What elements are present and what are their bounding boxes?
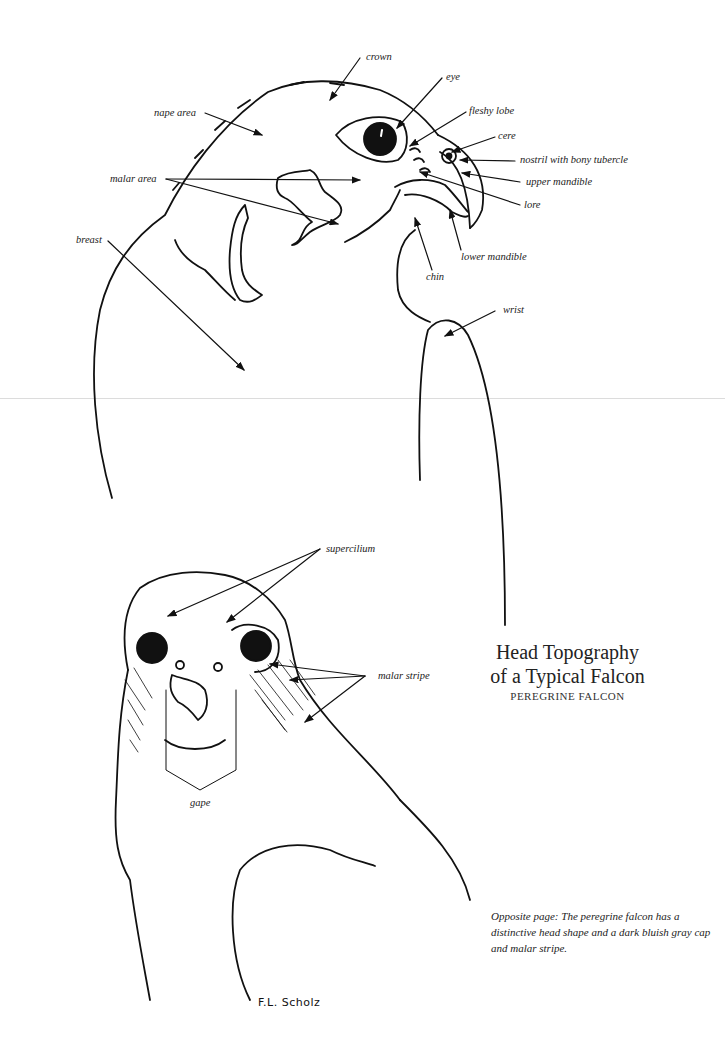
title-line-2: of a Typical Falcon <box>470 664 665 688</box>
label-eye: eye <box>446 72 460 83</box>
label-supercilium: supercilium <box>326 544 375 555</box>
label-crown: crown <box>366 52 392 63</box>
label-fleshy-lobe: fleshy lobe <box>469 106 514 117</box>
label-upper-mandible: upper mandible <box>526 177 592 188</box>
figure-subtitle: PEREGRINE FALCON <box>470 690 665 702</box>
label-nape-area: nape area <box>154 108 196 119</box>
label-lower-mandible: lower mandible <box>461 252 527 263</box>
label-malar-stripe: malar stripe <box>378 671 430 682</box>
front-falcon-drawing <box>116 572 470 1000</box>
label-cere: cere <box>498 131 516 142</box>
figure-caption: Opposite page: The peregrine falcon has … <box>491 908 721 956</box>
label-nostril: nostril with bony tubercle <box>520 155 628 166</box>
annotation-arrows <box>108 58 520 722</box>
label-malar-area: malar area <box>110 174 157 185</box>
label-gape: gape <box>190 798 210 809</box>
label-wrist: wrist <box>503 305 524 316</box>
figure-title: Head Topography of a Typical Falcon PERE… <box>470 640 665 702</box>
label-lore: lore <box>524 200 541 211</box>
artist-signature: F.L. Scholz <box>258 996 320 1009</box>
profile-falcon-drawing <box>94 81 505 625</box>
label-breast: breast <box>76 235 102 246</box>
label-chin: chin <box>426 272 444 283</box>
title-line-1: Head Topography <box>470 640 665 664</box>
